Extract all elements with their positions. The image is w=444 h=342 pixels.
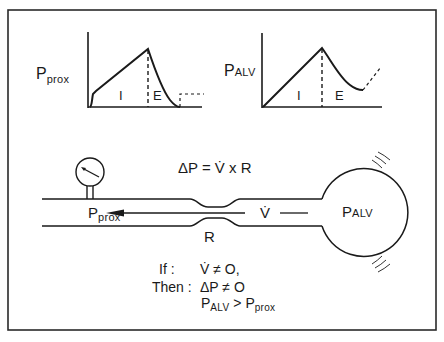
palv-next-breath <box>363 67 381 90</box>
pprox-graph <box>88 32 204 108</box>
condition-if-label: If : <box>159 262 175 276</box>
result-pprox-sub: prox <box>255 302 276 313</box>
condition-if-text: V̇ ≠ O, <box>200 262 240 276</box>
palv-phase-e: E <box>335 89 344 102</box>
alveolus-motion-marks-top <box>372 152 390 168</box>
airway-pprox-sub: prox <box>98 211 121 223</box>
pprox-next-breath <box>180 94 204 107</box>
alveolus-motion-marks-bottom <box>372 256 390 272</box>
palv-y-label: PALV <box>224 63 256 79</box>
result-palv-sub: ALV <box>210 302 229 313</box>
pprox-y-label-sub: prox <box>47 73 70 85</box>
pressure-gauge <box>76 158 104 199</box>
condition-then-text: ΔP ≠ O <box>200 280 245 294</box>
flow-label: V̇ <box>260 205 270 220</box>
pressure-flow-equation: ΔP = V̇ x R <box>178 160 252 175</box>
condition-result: PALV > Pprox <box>201 296 275 310</box>
result-operator: > <box>233 295 241 311</box>
resistance-label: R <box>204 229 215 244</box>
alveolus-label-sub: ALV <box>352 207 373 219</box>
condition-then-label: Then : <box>152 280 192 294</box>
pprox-curve <box>90 49 180 107</box>
alveolus-label: PALV <box>342 204 373 219</box>
pprox-y-label: Pprox <box>36 66 69 82</box>
palv-curve <box>263 48 363 107</box>
pprox-y-label-main: P <box>36 65 47 82</box>
gauge-needle-tip <box>81 167 86 171</box>
result-palv-main: P <box>201 295 210 311</box>
gauge-needle <box>84 169 99 177</box>
palv-y-label-main: P <box>224 62 235 79</box>
tube-bottom-wall <box>42 218 322 226</box>
palv-graph <box>262 33 382 108</box>
airway-pprox-label: Pprox <box>88 205 121 220</box>
tube-top-wall <box>42 199 322 207</box>
pprox-phase-e: E <box>153 89 162 102</box>
alveolus-label-main: P <box>342 203 352 220</box>
pprox-phase-i: I <box>119 89 123 102</box>
airway-pprox-main: P <box>88 204 98 221</box>
palv-phase-i: I <box>297 89 301 102</box>
result-pprox-main: P <box>245 295 254 311</box>
palv-y-label-sub: ALV <box>235 66 256 78</box>
